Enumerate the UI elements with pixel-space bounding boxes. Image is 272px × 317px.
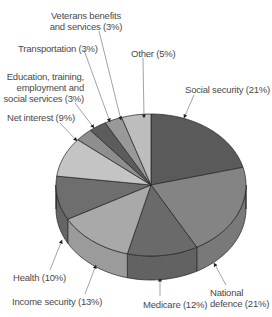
callout-arrow: [184, 95, 194, 118]
label-veterans: Veterans benefits and services (3%): [36, 10, 136, 32]
label-national-defence: National defence (21%): [210, 287, 269, 309]
callout-arrow: [99, 31, 121, 120]
callout-arrow: [60, 123, 77, 141]
label-social-security: Social security (21%): [185, 84, 270, 95]
pie-top-slices: [56, 114, 246, 256]
callout-arrow: [85, 265, 96, 294]
label-income-security: Income security (13%): [12, 296, 102, 307]
label-other: Other (5%): [131, 48, 175, 59]
label-medicare: Medicare (12%): [143, 299, 207, 310]
label-health: Health (10%): [13, 272, 66, 283]
callout-arrow: [214, 263, 226, 285]
callout-arrow: [50, 240, 62, 270]
callout-arrow: [143, 58, 144, 118]
callout-arrow: [75, 103, 94, 128]
label-transportation: Transportation (3%): [18, 43, 98, 54]
label-net-interest: Net interest (9%): [7, 112, 75, 123]
label-education: Education, training, employment and soci…: [2, 71, 84, 104]
